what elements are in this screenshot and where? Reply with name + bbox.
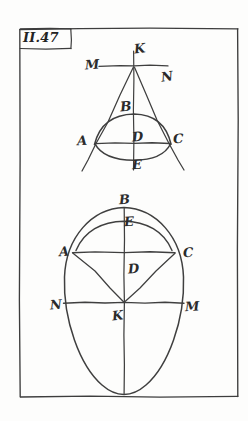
upper-label-K: K [133, 41, 146, 55]
lower-label-B: B [119, 193, 131, 207]
lower-label-K: K [111, 308, 124, 322]
upper-label-D: D [132, 130, 144, 144]
upper-label-E: E [132, 158, 143, 172]
radius-KA [73, 253, 124, 302]
upper-label-C: C [173, 132, 184, 145]
vertical-axis-upper [133, 51, 134, 170]
upper-label-A: A [77, 134, 88, 148]
vertical-axis-lower [124, 209, 125, 395]
lower-label-M: M [185, 300, 200, 314]
lower-label-D: D [128, 262, 140, 276]
upper-label-B: B [119, 100, 132, 114]
figure-number-label: II.47 [23, 30, 59, 45]
upper-label-N: N [160, 69, 174, 84]
page-frame [19, 28, 238, 397]
upper-label-M: M [85, 58, 100, 72]
figure-canvas [0, 0, 248, 421]
lower-figure-group [64, 208, 185, 395]
chord-AC-lower [73, 252, 176, 253]
lower-label-N: N [50, 298, 63, 312]
lower-label-A: A [59, 245, 70, 259]
lower-label-C: C [183, 246, 194, 260]
lower-label-E: E [124, 215, 135, 229]
scanned-figure-page: II.47 K M N B A D C E B E A C D N K M [0, 0, 248, 421]
